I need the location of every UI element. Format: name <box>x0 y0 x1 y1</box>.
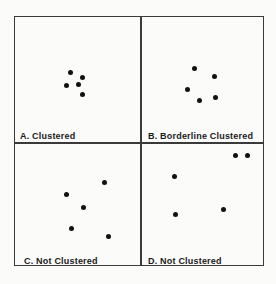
data-point-d <box>233 153 238 158</box>
data-point-a <box>76 82 81 87</box>
data-point-c <box>106 234 111 239</box>
data-point-b <box>212 74 217 79</box>
data-point-d <box>173 212 178 217</box>
data-point-a <box>64 83 69 88</box>
data-point-d <box>172 174 177 179</box>
data-point-a <box>68 70 73 75</box>
data-point-b <box>192 66 197 71</box>
data-point-b <box>185 87 190 92</box>
data-point-c <box>102 180 107 185</box>
data-point-d <box>221 207 226 212</box>
panel-d-label: D. Not Clustered <box>148 256 222 266</box>
data-point-b <box>197 98 202 103</box>
vertical-divider <box>140 16 142 266</box>
panel-c-label: C. Not Clustered <box>24 256 98 266</box>
panel-b-label: B. Borderline Clustered <box>148 131 253 141</box>
data-point-c <box>64 192 69 197</box>
figure-frame <box>14 16 264 266</box>
horizontal-divider <box>14 142 264 144</box>
data-point-b <box>213 95 218 100</box>
data-point-c <box>69 226 74 231</box>
panel-a-label: A. Clustered <box>20 131 75 141</box>
data-point-a <box>80 75 85 80</box>
data-point-c <box>81 205 86 210</box>
data-point-a <box>80 92 85 97</box>
data-point-d <box>245 153 250 158</box>
